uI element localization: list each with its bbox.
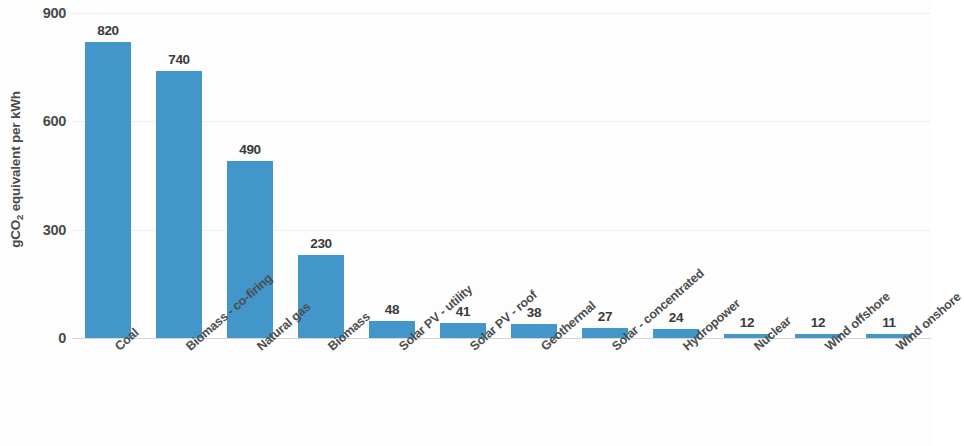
x-axis-label-slot: Geothermal [511,340,557,446]
x-axis-label-slot: Biomass [298,340,344,446]
bar-slot: 12 [795,13,841,338]
x-axis-label-slot: Solar - concentrated [582,340,628,446]
bar-slot: 38 [511,13,557,338]
x-axis-label-slot: Natural gas [227,340,273,446]
x-axis-label-slot: Hydropower [653,340,699,446]
y-axis-tick-label: 600 [20,113,66,129]
y-axis-tick-label: 0 [20,330,66,346]
bar-slot: 48 [369,13,415,338]
plot-area: 8207404902304841382724121211 [72,13,931,338]
bar-value-label: 740 [142,52,216,67]
bar-value-label: 820 [71,23,145,38]
bar-slot: 11 [866,13,912,338]
x-axis-label-slot: Solar PV - roof [440,340,486,446]
bar[interactable] [85,42,131,338]
bar-slot: 820 [85,13,131,338]
bar-value-label: 230 [284,236,358,251]
x-axis-label-slot: Coal [85,340,131,446]
bar[interactable] [156,71,202,338]
bar-slot: 27 [582,13,628,338]
y-axis-tick-label: 300 [20,222,66,238]
bar-slot: 12 [724,13,770,338]
bar[interactable] [298,255,344,338]
bar-slot: 230 [298,13,344,338]
x-axis-label-slot: Solar PV - utility [369,340,415,446]
x-axis-label-slot: Nuclear [724,340,770,446]
x-axis-label-slot: Wind onshore [866,340,912,446]
x-axis-label-slot: Wind offshore [795,340,841,446]
y-axis-tick-label: 900 [20,5,66,21]
x-axis-label-slot: Biomass - co-firing [156,340,202,446]
y-axis-ticks: 0300600900 [8,13,66,338]
x-axis-labels: CoalBiomass - co-firingNatural gasBiomas… [72,340,931,446]
bar-value-label: 490 [213,142,287,157]
bar-slot: 740 [156,13,202,338]
